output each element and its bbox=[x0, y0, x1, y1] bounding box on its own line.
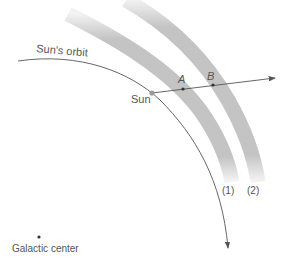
arm-2-label: (2) bbox=[247, 185, 259, 196]
orbit-label: Sun's orbit bbox=[36, 42, 88, 58]
galactic-diagram: Sun's orbit Sun A B (1) (2) Galactic cen… bbox=[0, 0, 283, 260]
point-a-label: A bbox=[177, 73, 185, 85]
arm-1-label: (1) bbox=[222, 185, 234, 196]
point-a-dot bbox=[181, 87, 184, 90]
galactic-center-dot bbox=[37, 235, 40, 238]
galactic-center-label: Galactic center bbox=[12, 243, 79, 254]
point-b-dot bbox=[211, 83, 214, 86]
sun-label: Sun bbox=[131, 93, 151, 105]
point-b-label: B bbox=[207, 70, 214, 82]
